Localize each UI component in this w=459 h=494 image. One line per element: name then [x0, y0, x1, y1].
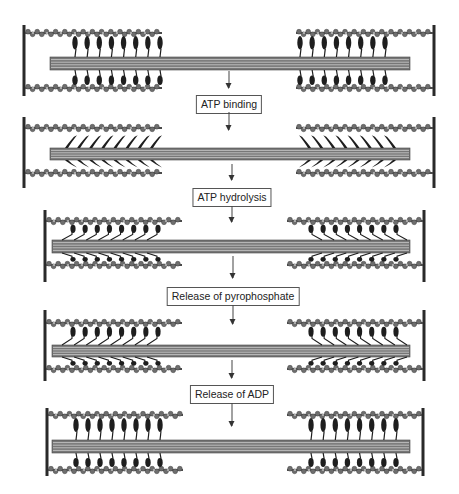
actin-monomer — [338, 469, 343, 474]
myosin-head — [333, 253, 347, 262]
step-arrow-out — [232, 206, 233, 222]
myosin-motor-domain — [84, 75, 89, 85]
actin-monomer — [347, 172, 352, 177]
actin-monomer — [118, 469, 123, 474]
myosin-head — [65, 160, 77, 168]
actin-monomer — [122, 32, 127, 37]
myosin-head — [145, 70, 150, 85]
actin-node — [345, 127, 347, 129]
myosin-motor-domain — [333, 458, 338, 467]
myosin-motor-domain — [155, 257, 160, 262]
actin-node — [88, 32, 90, 34]
actin-node — [165, 264, 167, 266]
myosin-head — [97, 36, 102, 57]
myosin-motor-domain — [299, 135, 311, 148]
actin-monomer — [380, 411, 385, 416]
actin-node — [151, 322, 153, 324]
actin-monomer — [104, 466, 109, 471]
actin-monomer — [324, 411, 329, 416]
myosin-motor-domain — [119, 225, 124, 233]
actin-monomer — [83, 319, 88, 324]
myosin-head — [135, 253, 149, 262]
myosin-motor-domain — [143, 257, 148, 262]
myosin-motor-domain — [145, 458, 150, 467]
myosin-neck — [148, 453, 149, 459]
myosin-motor-domain — [143, 361, 148, 366]
actin-monomer — [402, 87, 407, 92]
myosin-motor-domain — [297, 75, 302, 85]
actin-node — [364, 414, 366, 416]
actin-monomer — [58, 466, 63, 471]
actin-monomer — [311, 322, 316, 327]
actin-monomer — [306, 84, 311, 89]
myosin-motor-domain — [357, 418, 362, 432]
actin-monomer — [150, 172, 155, 177]
actin-monomer — [370, 466, 375, 471]
myosin-head — [109, 70, 114, 85]
actin-node — [95, 264, 97, 266]
actin-monomer — [177, 466, 182, 471]
actin-monomer — [81, 169, 86, 174]
myosin-head — [111, 327, 125, 345]
actin-monomer — [329, 368, 334, 373]
myosin-motor-domain — [133, 418, 138, 432]
actin-node — [67, 322, 69, 324]
actin-node — [350, 469, 352, 471]
actin-monomer — [177, 411, 182, 416]
myosin-head — [333, 225, 347, 240]
actin-monomer — [122, 87, 127, 92]
actin-monomer — [49, 172, 54, 177]
actin-node — [111, 414, 113, 416]
myosin-motor-domain — [73, 458, 78, 467]
myosin-motor-domain — [345, 361, 350, 366]
myosin-motor-domain — [101, 160, 113, 168]
myosin-head — [145, 36, 150, 57]
myosin-motor-domain — [345, 225, 350, 233]
actin-monomer — [26, 84, 31, 89]
myosin-head — [321, 327, 335, 345]
actin-monomer — [352, 124, 357, 129]
actin-node — [95, 368, 97, 370]
myosin-motor-domain — [333, 361, 338, 366]
actin-node — [359, 172, 361, 174]
actin-monomer — [131, 466, 136, 471]
actin-node — [331, 87, 333, 89]
myosin-motor-domain — [119, 361, 124, 366]
myosin-motor-domain — [145, 36, 150, 49]
actin-monomer — [416, 261, 421, 266]
myosin-head — [147, 327, 161, 345]
myosin-head — [381, 418, 386, 440]
myosin-neck — [335, 453, 336, 459]
actin-monomer — [95, 172, 100, 177]
actin-node — [373, 87, 375, 89]
actin-monomer — [375, 172, 380, 177]
actin-node — [387, 127, 389, 129]
myosin-motor-domain — [345, 327, 350, 337]
actin-filament — [46, 319, 182, 326]
myosin-head — [157, 453, 162, 467]
actin-monomer — [379, 84, 384, 89]
actin-node — [322, 220, 324, 222]
myosin-head — [358, 36, 363, 57]
actin-monomer — [389, 84, 394, 89]
myosin-motor-domain — [89, 135, 101, 148]
actin-monomer — [315, 319, 320, 324]
myosin-neck — [361, 49, 362, 57]
actin-node — [331, 172, 333, 174]
actin-monomer — [102, 319, 107, 324]
myosin-head — [138, 135, 150, 148]
actin-monomer — [329, 469, 334, 474]
actin-monomer — [310, 32, 315, 37]
actin-monomer — [361, 124, 366, 129]
myosin-motor-domain — [145, 75, 150, 85]
actin-monomer — [83, 217, 88, 222]
myosin-head — [360, 135, 372, 148]
myosin-head — [123, 225, 137, 240]
actin-monomer — [47, 217, 52, 222]
actin-monomer — [125, 322, 130, 327]
myosin-head — [320, 453, 325, 467]
actin-monomer — [402, 32, 407, 37]
actin-node — [130, 32, 132, 34]
actin-monomer — [56, 261, 61, 266]
actin-node — [387, 32, 389, 34]
